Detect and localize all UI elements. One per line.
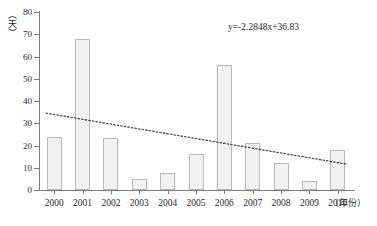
- y-axis-tick-text: 30: [10, 119, 32, 128]
- y-axis-tick: [34, 57, 39, 58]
- x-axis-tick: [338, 190, 339, 194]
- y-axis-tick-label: 0: [8, 186, 32, 195]
- y-axis-tick: [34, 34, 39, 35]
- x-axis-tick: [111, 190, 112, 194]
- x-axis-tick: [309, 190, 310, 194]
- y-axis-tick-label: 50: [8, 75, 32, 84]
- bar: [217, 65, 232, 190]
- bar: [47, 137, 62, 190]
- y-axis-tick-label: 30: [8, 119, 32, 128]
- bar: [75, 39, 90, 190]
- y-axis-tick: [34, 12, 39, 13]
- y-axis-tick-label: 60: [8, 53, 32, 62]
- y-axis-tick-text: 40: [10, 97, 32, 106]
- x-axis-line: [39, 190, 355, 191]
- y-axis-tick: [34, 168, 39, 169]
- bar: [189, 154, 204, 190]
- y-axis-tick-text: 0: [10, 186, 32, 195]
- y-axis-tick: [34, 123, 39, 124]
- y-axis-tick-label: 70: [8, 30, 32, 39]
- bar: [245, 143, 260, 190]
- bar: [302, 181, 317, 190]
- x-axis-tick: [196, 190, 197, 194]
- trendline: [0, 0, 377, 226]
- bar: [274, 163, 289, 190]
- x-axis-tick: [253, 190, 254, 194]
- y-axis-line: [39, 11, 40, 191]
- y-axis-tick-text: 60: [10, 53, 32, 62]
- bar: [103, 138, 118, 190]
- y-axis-tick-text: 80: [10, 8, 32, 17]
- bar: [132, 179, 147, 190]
- bar: [330, 150, 345, 190]
- y-axis-tick-label: 40: [8, 97, 32, 106]
- y-axis-tick-text: 70: [10, 30, 32, 39]
- y-axis-tick-label: 80: [8, 8, 32, 17]
- y-axis-tick: [34, 146, 39, 147]
- x-axis-tick: [224, 190, 225, 194]
- y-axis-tick: [34, 190, 39, 191]
- x-axis-tick: [139, 190, 140, 194]
- y-axis-tick: [34, 101, 39, 102]
- x-axis-tick: [54, 190, 55, 194]
- y-axis-tick: [34, 79, 39, 80]
- trendline-equation-label: y=-2.2848x+36.83: [228, 21, 299, 33]
- y-axis-tick-label: 10: [8, 164, 32, 173]
- y-axis-tick-text: 20: [10, 142, 32, 151]
- y-axis-tick-text: 10: [10, 164, 32, 173]
- x-axis-title: （年份）: [330, 198, 366, 209]
- y-axis-tick-text: 50: [10, 75, 32, 84]
- bar: [160, 173, 175, 190]
- y-axis-tick-label: 20: [8, 142, 32, 151]
- x-axis-tick: [168, 190, 169, 194]
- x-axis-tick: [281, 190, 282, 194]
- bar-chart: （天） 01020304050607080 200020012002200320…: [0, 0, 377, 226]
- x-axis-tick: [83, 190, 84, 194]
